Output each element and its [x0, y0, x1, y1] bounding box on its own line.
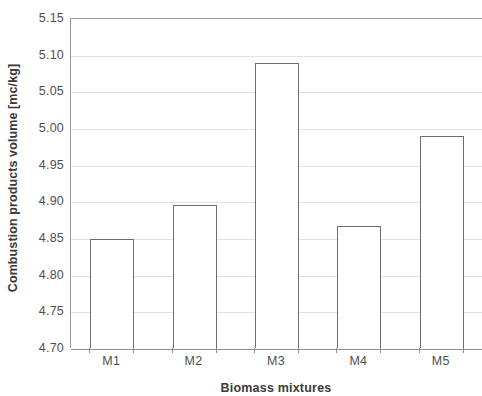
- x-axis-tick-mark: [216, 348, 217, 353]
- x-axis-category-label-m4: M4: [349, 354, 367, 368]
- x-axis-tick-mark: [336, 348, 337, 353]
- x-axis-tick-mark: [298, 348, 299, 353]
- x-axis-category-labels: M1M2M3M4M5: [70, 354, 482, 376]
- y-axis-tick-label: 5.00: [39, 121, 64, 135]
- y-axis-tick-label: 4.95: [39, 158, 64, 172]
- x-axis-category-label-m2: M2: [185, 354, 203, 368]
- bar-m1: [90, 239, 134, 348]
- x-axis-tick-mark: [419, 348, 420, 353]
- y-axis-title: Combustion products volume [mc/kg]: [0, 0, 26, 356]
- y-axis-tick-label: 4.85: [39, 231, 64, 245]
- y-axis-tick-label: 4.90: [39, 194, 64, 208]
- y-axis-tick-label: 5.05: [39, 84, 64, 98]
- bar-m3: [255, 63, 299, 348]
- bar-m2: [173, 205, 217, 348]
- bars-layer: [71, 19, 482, 348]
- x-axis-tick-mark: [133, 348, 134, 353]
- y-axis-tick-label: 4.80: [39, 268, 64, 282]
- x-axis-category-label-m3: M3: [267, 354, 285, 368]
- x-axis-tick-mark: [463, 348, 464, 353]
- y-axis-title-text: Combustion products volume [mc/kg]: [6, 64, 20, 292]
- y-axis-tick-labels: 4.704.754.804.854.904.955.005.055.105.15: [26, 0, 68, 396]
- plot-area: [70, 18, 482, 348]
- y-axis-tick-label: 4.70: [39, 341, 64, 355]
- x-axis-tick-mark: [380, 348, 381, 353]
- x-axis-title: Biomass mixtures: [70, 381, 482, 395]
- x-axis-category-label-m1: M1: [102, 354, 120, 368]
- y-axis-tick-label: 4.75: [39, 304, 64, 318]
- bar-m5: [420, 136, 464, 348]
- x-axis-tick-mark: [89, 348, 90, 353]
- x-axis-tick-mark: [172, 348, 173, 353]
- bar-m4: [337, 226, 381, 348]
- y-axis-tick-label: 5.10: [39, 48, 64, 62]
- x-axis-tick-mark: [254, 348, 255, 353]
- y-axis-tick-label: 5.15: [39, 11, 64, 25]
- x-axis-category-label-m5: M5: [432, 354, 450, 368]
